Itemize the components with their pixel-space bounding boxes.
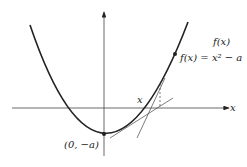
x-axis-label: x (230, 102, 236, 113)
parabola-curve (30, 22, 188, 133)
x-point-label: x (137, 94, 143, 105)
diagram-canvas: f(x) f(x) = x² − a x x (0, −a) (0, 0, 247, 167)
vertex-point (102, 132, 106, 136)
vertex-label: (0, −a) (64, 139, 99, 150)
curve-name-label: f(x) (212, 36, 230, 47)
curve-equation-label: f(x) = x² − a (179, 52, 242, 63)
curve-point (173, 52, 177, 56)
